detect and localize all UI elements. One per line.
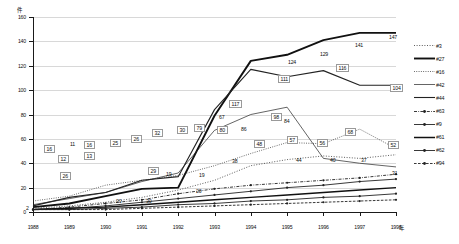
y-axis-tick-label: 40: [6, 160, 26, 166]
data-label: 84: [284, 118, 289, 124]
data-label-boxed: 12: [58, 155, 69, 163]
x-axis-tick-label: 1989: [52, 224, 86, 230]
legend-label: #61: [436, 134, 444, 140]
legend-key-icon: [414, 54, 435, 63]
series-line: [33, 194, 396, 210]
data-label-boxed: 79: [194, 124, 205, 132]
legend-key-icon: [414, 146, 435, 155]
data-label-boxed: 16: [84, 141, 95, 149]
series-point: [68, 208, 70, 210]
chart-container: 件 年 020406080100120140160 19881989199019…: [0, 0, 459, 244]
series-point: [250, 204, 252, 206]
data-label: 124: [288, 59, 296, 65]
data-label: 67: [219, 114, 224, 120]
legend-item[interactable]: #62: [414, 144, 459, 157]
series-point: [105, 202, 107, 204]
series-line: [33, 129, 396, 201]
data-label: 147: [389, 34, 397, 40]
series-line: [33, 174, 396, 209]
legend-item[interactable]: #9: [414, 118, 459, 131]
series-point: [105, 208, 107, 210]
gridline: [33, 163, 396, 164]
data-label: 11: [70, 141, 75, 147]
legend-item[interactable]: #27: [414, 52, 459, 65]
series-point: [177, 193, 179, 195]
data-label-boxed: 104: [390, 84, 403, 92]
gridline: [33, 139, 396, 140]
x-axis-tick: [396, 212, 397, 216]
series-line: [33, 200, 396, 210]
legend-key-icon: [414, 107, 435, 116]
legend-item[interactable]: #3: [414, 39, 459, 52]
gridline: [33, 188, 396, 189]
series-point: [322, 184, 324, 186]
data-label: 38: [232, 158, 237, 164]
data-label: 40: [330, 157, 335, 163]
series-point: [322, 179, 324, 181]
legend-label: #62: [436, 147, 444, 153]
legend-key-icon: [414, 159, 435, 168]
data-label: 37: [361, 157, 366, 163]
series-point: [395, 193, 397, 195]
data-label: 141: [355, 42, 363, 48]
legend-item[interactable]: #61: [414, 131, 459, 144]
x-axis-tick-label: 1994: [234, 224, 268, 230]
legend-item[interactable]: #63: [414, 104, 459, 117]
series-point: [177, 206, 179, 208]
series-point: [68, 208, 70, 210]
data-label-boxed: 48: [254, 140, 265, 148]
series-point: [141, 201, 143, 203]
legend-key-icon: [414, 80, 435, 89]
series-point: [322, 201, 324, 203]
series-point: [250, 190, 252, 192]
data-label-boxed: 52: [388, 141, 399, 149]
legend-item[interactable]: #16: [414, 65, 459, 78]
data-label: 19: [166, 171, 171, 177]
data-label: 30: [146, 198, 151, 204]
data-label-boxed: 29: [148, 167, 159, 175]
legend-item[interactable]: #44: [414, 91, 459, 104]
series-point: [177, 197, 179, 199]
series-point: [141, 199, 143, 201]
y-axis-tick-label: 0: [6, 209, 26, 215]
y-axis-tick-label: 160: [6, 14, 26, 20]
data-label-boxed: 30: [177, 126, 188, 134]
gridline: [33, 17, 396, 18]
legend-label: #9: [436, 121, 442, 127]
legend-label: #27: [436, 56, 444, 62]
series-point: [213, 202, 215, 204]
data-label: 20: [116, 198, 121, 204]
legend-item[interactable]: #42: [414, 78, 459, 91]
legend-key-icon: [414, 93, 435, 102]
data-label: 44: [296, 157, 301, 163]
y-axis-tick-label: 120: [6, 63, 26, 69]
series-point: [177, 204, 179, 206]
legend-label: #16: [436, 69, 444, 75]
data-label: 86: [241, 126, 246, 132]
y-axis-line: [33, 17, 34, 213]
series-point: [68, 207, 70, 209]
series-line: [33, 188, 396, 210]
data-label-boxed: 26: [60, 172, 71, 180]
series-point: [213, 205, 215, 207]
legend-key-icon: [414, 67, 435, 76]
series-point: [141, 206, 143, 208]
data-label-boxed: 111: [278, 75, 290, 83]
gridline: [33, 41, 396, 42]
data-label-boxed: 16: [44, 145, 55, 153]
legend-label: #94: [436, 160, 444, 166]
data-label-boxed: 117: [229, 100, 242, 108]
data-label-boxed: 25: [110, 139, 121, 147]
x-axis-tick-label: 1995: [270, 224, 304, 230]
gridline: [33, 115, 396, 116]
x-axis-tick-label: 1998: [379, 224, 413, 230]
series-point: [359, 195, 361, 197]
series-point: [359, 200, 361, 202]
data-label-boxed: 116: [336, 64, 349, 72]
series-point: [359, 177, 361, 179]
series-point: [105, 205, 107, 207]
x-axis-tick-label: 1993: [198, 224, 232, 230]
legend-item[interactable]: #94: [414, 157, 459, 170]
y-axis-tick-label: 80: [6, 112, 26, 118]
y-axis-tick-label: 20: [6, 185, 26, 191]
